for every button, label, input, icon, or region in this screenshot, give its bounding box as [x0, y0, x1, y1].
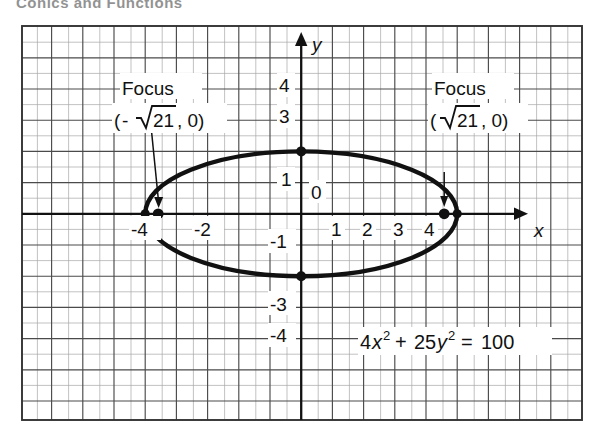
y-tick-label: -4 — [270, 325, 287, 346]
y-tick-label: -3 — [270, 294, 287, 315]
focus-left-coord-rest: , 0) — [177, 110, 204, 131]
equation-coef-a: 4 — [360, 331, 371, 353]
focus-right-annotation: Focus ( 21 , 0) — [428, 73, 528, 133]
x-tick-label: 3 — [393, 219, 404, 240]
focus-left-radicand: 21 — [153, 110, 174, 131]
equation-coef-b: 25 — [414, 331, 436, 353]
y-tick-label: 1 — [281, 169, 292, 190]
equation-plus: + — [395, 331, 407, 353]
equation-equals: = — [461, 331, 473, 353]
equation-exp-y: 2 — [448, 328, 455, 343]
x-tick-label: -2 — [194, 219, 211, 240]
x-tick-label: 2 — [362, 219, 373, 240]
co-vertex-bottom-point — [296, 271, 306, 281]
x-tick-label: 4 — [424, 219, 435, 240]
focus-right-title: Focus — [434, 78, 486, 99]
focus-right-radicand: 21 — [457, 110, 478, 131]
equation-exp-x: 2 — [383, 328, 390, 343]
y-axis-label: y — [310, 34, 323, 55]
y-tick-label: 4 — [279, 75, 290, 96]
y-tick-label: -1 — [270, 231, 287, 252]
equation-var-x: x — [371, 331, 383, 353]
x-tick-label: -4 — [131, 219, 148, 240]
co-vertex-top-point — [296, 146, 306, 156]
equation-annotation: 4 x 2 + 25 y 2 = 100 — [358, 327, 552, 355]
focus-right-point — [439, 208, 450, 219]
focus-right-coord-open: ( — [430, 110, 437, 131]
focus-left-title: Focus — [122, 78, 174, 99]
equation-rhs: 100 — [481, 331, 514, 353]
vertex-right-point — [453, 209, 462, 218]
x-tick-label: 1 — [331, 219, 342, 240]
focus-left-coord-open: ( — [114, 110, 121, 131]
equation-var-y: y — [435, 331, 448, 353]
origin-label: 0 — [311, 182, 322, 203]
x-axis-label: x — [533, 220, 545, 241]
focus-right-coord-rest: , 0) — [481, 110, 508, 131]
y-tick-label: 3 — [279, 106, 290, 127]
focus-left-coord-sign: - — [122, 110, 128, 131]
ellipse-figure: x y 0 -4 -2 1 2 3 4 4 3 1 -1 -3 -4 — [0, 0, 604, 427]
